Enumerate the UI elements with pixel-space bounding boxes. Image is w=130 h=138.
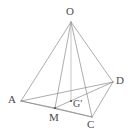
edge-M-D — [55, 82, 113, 108]
point-label-D: D — [116, 75, 124, 86]
point-label-A: A — [8, 94, 16, 105]
point-label-M: M — [49, 112, 59, 123]
point-label-Gprime: G′ — [73, 99, 82, 109]
vertex-dot-Gprime — [70, 100, 72, 102]
edge-A-D — [21, 82, 113, 101]
edge-C-D — [92, 82, 113, 117]
vertex-dot-M — [54, 107, 56, 109]
figure-canvas — [0, 0, 130, 138]
edge-layer — [21, 22, 113, 117]
point-label-O: O — [66, 6, 74, 17]
edge-M-C — [55, 108, 92, 117]
point-label-C: C — [87, 119, 94, 130]
geometry-figure: OADCMG′ — [0, 0, 130, 138]
